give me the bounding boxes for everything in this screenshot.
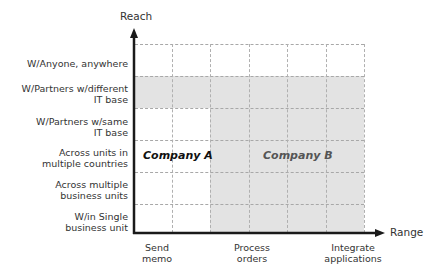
- col-label-process-orders: Process orders: [234, 242, 270, 264]
- row-label-line: business units: [55, 190, 128, 201]
- row-label-line: W/in Single: [65, 211, 128, 222]
- col-label-integrate-applications: Integrate applications: [324, 242, 381, 264]
- y-axis-arrow-icon: [130, 28, 138, 38]
- row-label-line: multiple countries: [42, 158, 128, 169]
- row-label-line: W/Anyone, anywhere: [27, 58, 128, 69]
- row-label-line: business unit: [65, 222, 128, 233]
- x-axis-arrow-icon: [375, 229, 385, 237]
- row-label-line: W/Partners w/different: [22, 83, 128, 94]
- row-label-line: IT base: [36, 127, 128, 138]
- col-label-line: Send: [142, 242, 172, 253]
- row-label-partners-same: W/Partners w/same IT base: [36, 116, 128, 138]
- col-label-line: Integrate: [324, 242, 381, 253]
- company-b-label: Company B: [263, 149, 333, 162]
- col-label-line: applications: [324, 253, 381, 264]
- row-label-single-unit: W/in Single business unit: [65, 211, 128, 233]
- row-label-multiple-units: Across multiple business units: [55, 179, 128, 201]
- row-label-line: Across multiple: [55, 179, 128, 190]
- row-label-anyone: W/Anyone, anywhere: [27, 58, 128, 69]
- col-label-send-memo: Send memo: [142, 242, 172, 264]
- col-label-line: memo: [142, 253, 172, 264]
- col-label-line: Process: [234, 242, 270, 253]
- row-label-partners-different: W/Partners w/different IT base: [22, 83, 128, 105]
- row-label-line: Across units in: [42, 147, 128, 158]
- company-a-label: Company A: [143, 149, 213, 162]
- row-label-multiple-countries: Across units in multiple countries: [42, 147, 128, 169]
- row-label-line: IT base: [22, 94, 128, 105]
- row-label-line: W/Partners w/same: [36, 116, 128, 127]
- col-label-line: orders: [234, 253, 270, 264]
